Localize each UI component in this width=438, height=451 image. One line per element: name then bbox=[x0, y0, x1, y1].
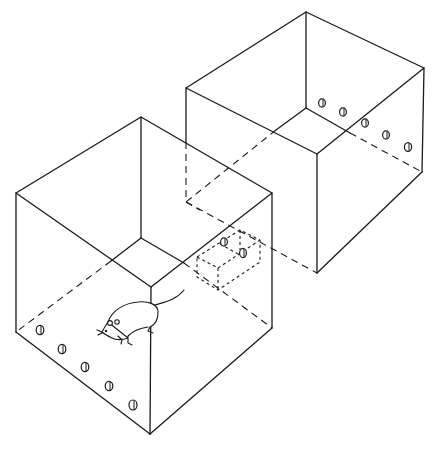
back-box-bottom-right-edge bbox=[317, 172, 422, 273]
nose-poke-hole-icon bbox=[383, 131, 390, 139]
front-box-floor-edge-right bbox=[141, 238, 184, 263]
back-box-floor-edge-left-hidden bbox=[186, 130, 276, 202]
nose-poke-hole-icon bbox=[105, 381, 113, 390]
two-chamber-apparatus-diagram: Isometric line drawing of two open-top t… bbox=[0, 0, 438, 451]
nose-poke-hole-icon bbox=[319, 99, 326, 107]
back-box-hidden-continuation bbox=[186, 202, 200, 210]
back-chamber bbox=[186, 12, 424, 273]
tunnel-hole-icon bbox=[221, 238, 228, 246]
nose-poke-hole-icon bbox=[129, 400, 137, 410]
connecting-tunnel bbox=[197, 230, 260, 290]
back-box-floor-edge-left bbox=[276, 108, 306, 130]
nose-poke-hole-icon bbox=[36, 325, 44, 334]
back-box-holes bbox=[319, 99, 412, 152]
front-box-bottom-right-edge bbox=[150, 328, 272, 434]
rat-ear bbox=[108, 321, 113, 326]
nose-poke-hole-icon bbox=[58, 344, 66, 353]
front-box-bottom-left-edge bbox=[16, 332, 150, 434]
rat-tail bbox=[155, 290, 184, 305]
front-box-top-rim bbox=[16, 117, 272, 287]
tunnel-outline bbox=[197, 230, 260, 290]
rat-ear bbox=[115, 320, 119, 324]
nose-poke-hole-icon bbox=[340, 108, 347, 116]
back-box-right-edge bbox=[422, 68, 424, 172]
nose-poke-hole-icon bbox=[362, 119, 369, 127]
nose-poke-hole-icon bbox=[81, 362, 89, 371]
tunnel-hole-icon bbox=[240, 248, 247, 257]
rat-eye bbox=[105, 330, 107, 332]
tunnel-edge bbox=[197, 257, 218, 268]
nose-poke-hole-icon bbox=[404, 143, 411, 152]
front-box-floor-edge-left bbox=[111, 238, 141, 261]
rat-icon bbox=[97, 290, 184, 345]
back-box-bottom-left-edge-hidden bbox=[186, 202, 317, 273]
front-box-floor-edge-left-hidden bbox=[16, 261, 111, 332]
